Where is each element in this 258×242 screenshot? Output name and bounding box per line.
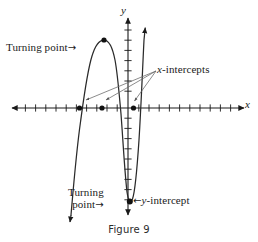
annotation-turning-point-top: Turning point→ (6, 41, 76, 53)
annotation-y-intercept-text: -intercept (146, 194, 189, 206)
figure-container: Turning point→ x-intercepts Turningpoint… (0, 0, 258, 242)
annotation-y-intercept: ←y-intercept (133, 194, 190, 206)
leader-to-x-intercept-2 (106, 71, 156, 100)
annotation-turning-point-top-text: Turning point (6, 41, 68, 53)
x-intercept-dot-2 (99, 105, 104, 110)
annotation-turning-point-bottom-line2-wrap: point→ (68, 198, 104, 210)
x-intercept-dot-3 (131, 105, 136, 110)
annotation-turning-point-bottom: Turningpoint→ (68, 186, 104, 210)
axis-label-y: y (121, 4, 126, 16)
annotation-turning-point-bottom-line1: Turning (68, 186, 104, 198)
arrow-right-icon: → (95, 199, 103, 210)
y-axis (124, 18, 131, 215)
annotation-x-intercepts: x-intercepts (157, 63, 210, 75)
x-intercept-dot-1 (77, 105, 82, 110)
axis-label-x: x (245, 98, 250, 110)
annotation-turning-point-bottom-line2: point (72, 198, 95, 210)
graph-plot-area (0, 0, 258, 242)
curve-left-tail (70, 215, 71, 222)
leader-lines (86, 71, 156, 101)
turning-point-min-dot (127, 199, 133, 205)
turning-point-max-dot (101, 37, 106, 42)
arrow-right-icon: → (68, 42, 76, 53)
figure-caption: Figure 9 (0, 224, 258, 235)
annotation-x-intercepts-text: -intercepts (162, 63, 210, 75)
